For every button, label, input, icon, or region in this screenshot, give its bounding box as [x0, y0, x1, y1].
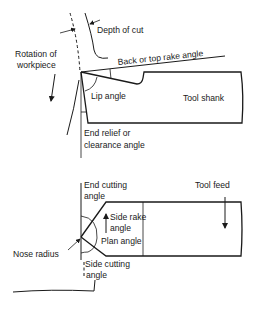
side-view: Depth of cut Rotation of workpiece Back … — [15, 13, 243, 158]
rotation-arrow — [51, 74, 55, 101]
rotation-label-line1: Rotation of — [15, 49, 57, 59]
workpiece-edge — [13, 280, 95, 292]
lip-angle-label: Lip angle — [91, 91, 126, 101]
tool-geometry-diagram: Depth of cut Rotation of workpiece Back … — [0, 0, 255, 312]
depth-of-cut-arrow-left — [60, 29, 75, 33]
workpiece-surface-dashed — [70, 13, 80, 72]
tool-plan-outline — [81, 202, 242, 256]
back-rake-label: Back or top rake angle — [117, 48, 204, 67]
cut-surface-curve — [85, 13, 108, 58]
side-rake-label-line1: Side rake — [110, 212, 147, 222]
nose-radius-arrow — [68, 239, 80, 250]
side-rake-label-line2: angle — [110, 223, 131, 233]
nose-radius-label: Nose radius — [13, 249, 59, 259]
end-cutting-label-line2: angle — [84, 191, 105, 201]
end-relief-label-line2: clearance angle — [84, 140, 145, 150]
end-cutting-label-line1: End cutting — [84, 180, 127, 190]
tool-feed-label: Tool feed — [195, 180, 230, 190]
side-cutting-label-line2: angle — [86, 270, 107, 280]
depth-of-cut-label: Depth of cut — [97, 25, 144, 35]
lip-angle-arc — [85, 77, 97, 91]
end-relief-label-line1: End relief or — [84, 128, 130, 138]
rake-angle-tick — [110, 69, 111, 79]
tool-shank-label: Tool shank — [183, 93, 225, 103]
depth-of-cut-arrow-right — [90, 20, 100, 24]
workpiece-outer-curve — [67, 80, 79, 135]
side-cutting-label-line1: Side cutting — [85, 259, 130, 269]
plan-angle-label: Plan angle — [101, 236, 142, 246]
rotation-label-line2: workpiece — [16, 60, 56, 70]
plan-view: End cutting angle Tool feed Side rake an… — [13, 180, 242, 292]
